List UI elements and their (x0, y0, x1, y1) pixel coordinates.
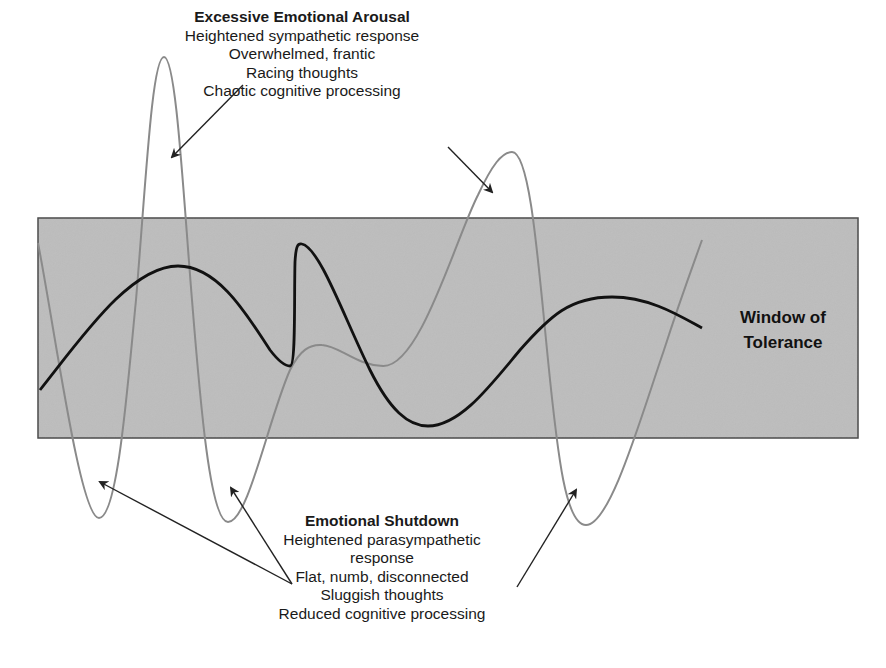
window-label-line2: Tolerance (728, 330, 838, 355)
hypoarousal-line: Reduced cognitive processing (262, 605, 502, 624)
arrow-to-right-peak (448, 147, 492, 192)
hyperarousal-line: Overwhelmed, frantic (152, 45, 452, 64)
hypoarousal-line: Flat, numb, disconnected (262, 568, 502, 587)
hyperarousal-line: Chaotic cognitive processing (152, 82, 452, 101)
hypoarousal-line: response (262, 549, 502, 568)
arrow-to-right-trough (517, 490, 576, 587)
hyperarousal-label: Excessive Emotional Arousal Heightened s… (152, 8, 452, 101)
hyperarousal-line: Racing thoughts (152, 64, 452, 83)
window-of-tolerance-label: Window of Tolerance (728, 305, 838, 355)
hyperarousal-line: Heightened sympathetic response (152, 27, 452, 46)
hyperarousal-title: Excessive Emotional Arousal (152, 8, 452, 27)
hypoarousal-title: Emotional Shutdown (262, 512, 502, 531)
window-label-line1: Window of (728, 305, 838, 330)
hypoarousal-line: Heightened parasympathetic (262, 531, 502, 550)
hypoarousal-line: Sluggish thoughts (262, 586, 502, 605)
hypoarousal-label: Emotional Shutdown Heightened parasympat… (262, 512, 502, 623)
